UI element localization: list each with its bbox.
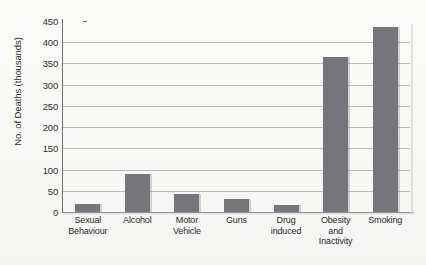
gridline	[63, 85, 410, 86]
gridline	[63, 106, 410, 107]
y-axis-title: No. of Deaths (thousands)	[12, 17, 23, 167]
y-axis-tick-label: 100	[28, 164, 58, 175]
y-axis-tick-label: 300	[28, 79, 58, 90]
x-axis-category-label: SexualBehaviour	[63, 215, 113, 236]
gridline	[63, 63, 410, 64]
y-axis-tick-label: 400	[28, 37, 58, 48]
x-axis-category-label: MotorVehicle	[162, 215, 212, 236]
y-axis-tick-label: 250	[28, 100, 58, 111]
y-axis-tick-label: 450	[28, 16, 58, 27]
right-edge-shadow	[411, 24, 414, 214]
gridline	[63, 170, 410, 171]
x-axis-category-label: Druginduced	[261, 215, 311, 236]
x-axis-category-label: Guns	[212, 215, 262, 226]
x-axis-category-label: Alcohol	[113, 215, 163, 226]
y-axis-tick-label: 0	[28, 207, 58, 218]
y-axis-tick-label: 200	[28, 122, 58, 133]
y-axis-tick-labels: 050100150200250300350400450	[25, 21, 58, 212]
bar	[75, 204, 100, 212]
plot-area	[63, 21, 410, 212]
y-axis-tick-label: 50	[28, 185, 58, 196]
x-axis-category-label: Smoking	[360, 215, 410, 226]
bar	[224, 199, 249, 212]
gridline	[63, 127, 410, 128]
bar	[174, 194, 199, 212]
y-axis-tick-label: 150	[28, 143, 58, 154]
gridline	[63, 191, 410, 192]
y-axis-tick-label: 350	[28, 58, 58, 69]
x-axis-category-labels: SexualBehaviourAlcoholMotorVehicleGunsDr…	[63, 215, 410, 263]
bar	[274, 205, 299, 212]
chart-page: No. of Deaths (thousands) 05010015020025…	[0, 0, 426, 265]
bar	[125, 174, 150, 212]
bar	[373, 27, 398, 212]
gridline	[63, 148, 410, 149]
gridline	[63, 42, 410, 43]
x-axis-category-label: ObesityandInactivity	[311, 215, 361, 247]
bar	[323, 57, 348, 212]
